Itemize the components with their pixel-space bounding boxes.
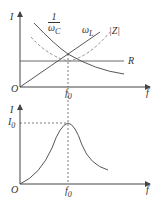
capacitive-label: 1 ωC [48, 12, 60, 36]
diagram-canvas [0, 0, 160, 202]
top-x-axis-label: f [146, 88, 149, 98]
top-y-axis-label: I [10, 12, 13, 22]
bottom-resonance-label: f0 [65, 186, 72, 199]
resistance-label: R [128, 56, 134, 66]
inductive-label: ωL [82, 25, 94, 38]
inductive-reactance-line [20, 32, 100, 87]
top-origin-label: O [11, 84, 18, 94]
peak-label: I0 [8, 117, 15, 130]
current-resonance-curve [20, 123, 108, 184]
bottom-y-axis-label: I [10, 105, 13, 115]
impedance-curve [31, 32, 110, 61]
bottom-axes [20, 105, 150, 184]
bottom-origin-label: O [11, 185, 18, 195]
top-resonance-label: f0 [65, 88, 72, 101]
impedance-label: |Z| [109, 26, 120, 36]
bottom-x-axis-label: f [146, 185, 149, 195]
